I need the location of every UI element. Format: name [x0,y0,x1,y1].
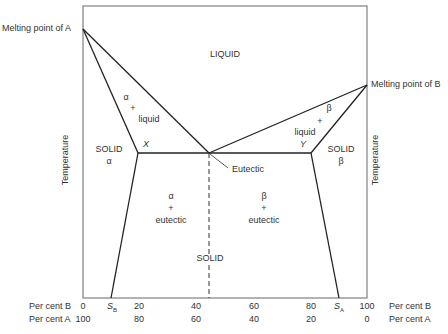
tick-b-60: 60 [249,302,259,311]
solid-alpha-solid: SOLID [95,145,122,154]
tick-a-0: 0 [364,315,369,324]
solid-beta-solid: SOLID [327,145,354,154]
tick-b-40: 40 [191,302,201,311]
melting-point-a-label: Melting point of A [2,24,71,33]
tick-a-40: 40 [249,315,259,324]
alpha-eutectic-plus: + [168,204,173,213]
tick-b-0: 0 [80,302,85,311]
per-cent-a-right: Per cent A [389,315,431,324]
beta-liquid-text: liquid [294,128,315,137]
eutectic-pointer [210,154,228,168]
temperature-axis-left: Temperature [60,135,70,186]
per-cent-b-left: Per cent B [29,302,71,311]
solid-alpha-alpha: α [106,157,111,166]
melting-point-b-label: Melting point of B [371,80,441,89]
beta-liquid-beta: β [326,104,331,113]
tick-a-100: 100 [75,315,90,324]
solvus-a [111,153,138,298]
solidus-a [83,29,138,153]
solid-region-label: SOLID [195,254,224,263]
alpha-eutectic-alpha: α [168,192,173,201]
tick-a-80: 80 [134,315,144,324]
beta-eutectic-text: eutectic [248,216,279,225]
beta-liquid-plus: + [317,117,322,126]
solid-beta-beta: β [338,157,343,166]
beta-eutectic-plus: + [261,204,266,213]
per-cent-a-left: Per cent A [29,315,71,324]
solvus-b [311,153,339,298]
tick-b-20: 20 [134,302,144,311]
sa-label: SA [334,302,344,313]
alpha-liquid-alpha: α [123,93,128,102]
liquid-region-label: LIQUID [210,50,240,59]
per-cent-b-right: Per cent B [389,302,431,311]
sb-label: SB [107,302,117,313]
tick-b-100: 100 [359,302,374,311]
tick-a-20: 20 [306,315,316,324]
liquidus-b [209,85,367,153]
point-x-label: X [143,140,149,149]
tick-a-60: 60 [191,315,201,324]
alpha-liquid-text: liquid [138,115,159,124]
alpha-liquid-plus: + [130,104,135,113]
alpha-eutectic-text: eutectic [155,216,186,225]
tick-b-80: 80 [306,302,316,311]
point-y-label: Y [300,140,306,149]
beta-eutectic-beta: β [261,192,266,201]
temperature-axis-right: Temperature [370,135,380,186]
liquidus-a [83,29,209,153]
eutectic-point-label: Eutectic [232,165,264,174]
